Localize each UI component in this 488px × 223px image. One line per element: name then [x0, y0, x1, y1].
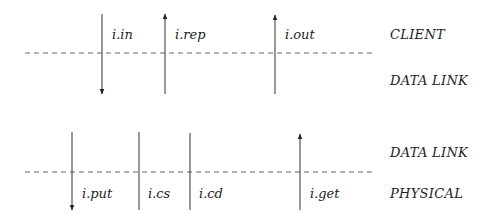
layer-label-client: CLIENT — [390, 28, 445, 41]
signal-label-i-rep: i.rep — [175, 28, 206, 41]
signal-label-i-put: i.put — [82, 187, 112, 200]
signal-label-i-get: i.get — [310, 187, 340, 200]
signal-label-i-in: i.in — [112, 28, 133, 41]
signal-label-i-cs: i.cs — [148, 187, 170, 200]
layer-label-physical: PHYSICAL — [390, 187, 463, 200]
layer-interface-diagram: i.in i.rep i.out CLIENT DATA LINK i.put … — [0, 0, 488, 223]
layer-label-data-link-top: DATA LINK — [390, 74, 468, 87]
signal-label-i-cd: i.cd — [199, 187, 223, 200]
signal-label-i-out: i.out — [285, 28, 315, 41]
layer-label-data-link-bottom: DATA LINK — [390, 146, 468, 159]
